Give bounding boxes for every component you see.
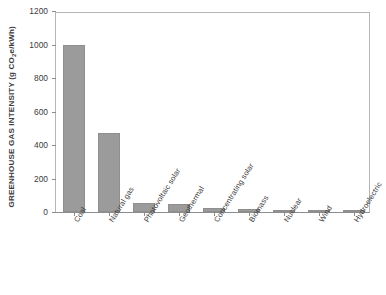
greenhouse-gas-intensity-bar-chart: GREENHOUSE GAS INTENSITY (g CO2e/kWh) 02…: [0, 0, 386, 295]
bar: [63, 45, 85, 213]
y-axis-tick-label: 400: [34, 140, 48, 150]
y-axis-title: GREENHOUSE GAS INTENSITY (g CO2e/kWh): [7, 17, 17, 217]
y-axis-tick-label: 1000: [29, 40, 48, 50]
bar: [98, 133, 120, 212]
y-axis-title-before: GREENHOUSE GAS INTENSITY (g CO: [7, 57, 16, 208]
y-axis-tick-label: 0: [43, 207, 48, 217]
y-axis-tick-mark: [52, 212, 56, 213]
bars-layer: [56, 13, 369, 212]
y-axis-tick-label: 1200: [29, 6, 48, 16]
y-axis-title-subscript: 2: [11, 53, 17, 57]
y-axis-tick-label: 200: [34, 174, 48, 184]
y-axis-tick-label: 800: [34, 73, 48, 83]
y-axis-tick-mark: [52, 11, 56, 12]
plot-area: 020040060080010001200 CoalNatural gasPho…: [55, 12, 370, 213]
y-axis-tick-label: 600: [34, 107, 48, 117]
y-axis-title-after: e/kWh): [7, 26, 16, 53]
